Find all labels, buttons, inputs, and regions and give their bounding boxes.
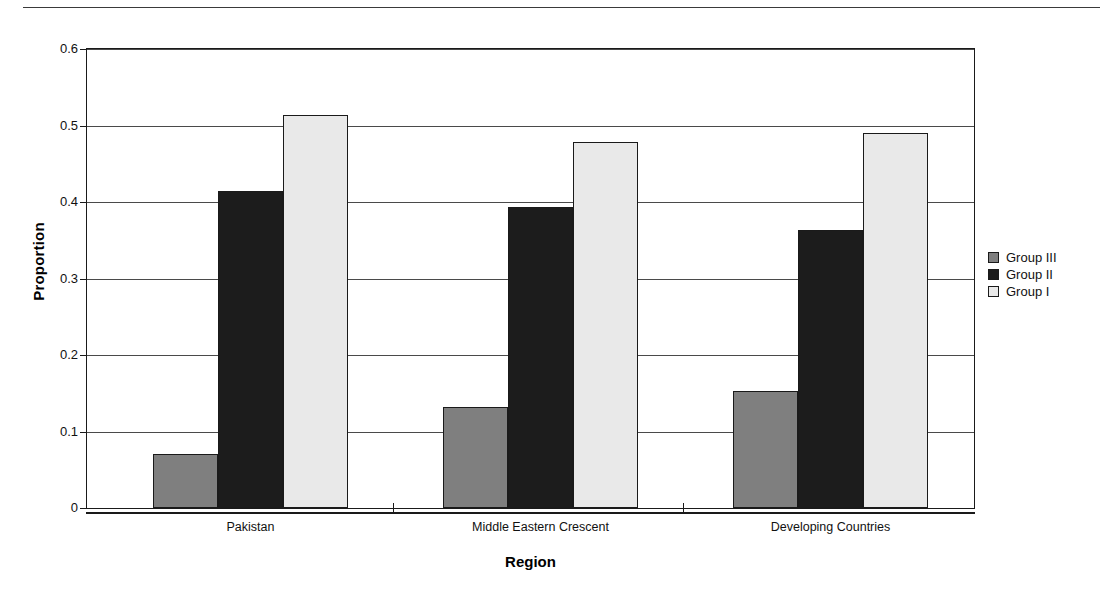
y-tick-label: 0.5 bbox=[34, 119, 78, 132]
y-tick-label: 0 bbox=[34, 501, 78, 514]
bar-group-i-pakistan bbox=[283, 115, 348, 508]
legend-item[interactable]: Group II bbox=[988, 266, 1057, 283]
bar-group-iii-developing-countries bbox=[733, 391, 798, 508]
y-tick-label: 0.3 bbox=[34, 272, 78, 285]
plot-area bbox=[86, 48, 975, 509]
bar-group-ii-pakistan bbox=[218, 191, 283, 508]
bar-group-ii-developing-countries bbox=[798, 230, 863, 508]
x-category-label: Developing Countries bbox=[701, 520, 961, 534]
bar-group-ii-middle-eastern-crescent bbox=[508, 207, 573, 508]
y-tick-label: 0.4 bbox=[34, 195, 78, 208]
y-tick-label: 0.6 bbox=[34, 42, 78, 55]
y-axis-title: Proportion bbox=[30, 162, 47, 362]
bar-chart-figure: Proportion 00.10.20.30.40.50.6 PakistanM… bbox=[0, 0, 1115, 591]
bar-group-i-middle-eastern-crescent bbox=[573, 142, 638, 508]
legend-swatch-icon bbox=[988, 269, 999, 280]
x-axis-line bbox=[86, 512, 975, 514]
plot-inner bbox=[87, 49, 974, 508]
legend: Group IIIGroup IIGroup I bbox=[988, 249, 1057, 300]
bar-group-iii-pakistan bbox=[153, 454, 218, 508]
bar-group-i-developing-countries bbox=[863, 133, 928, 508]
x-tick-mark bbox=[393, 503, 394, 513]
y-tick-label: 0.2 bbox=[34, 348, 78, 361]
legend-label: Group III bbox=[1006, 251, 1057, 264]
legend-item[interactable]: Group III bbox=[988, 249, 1057, 266]
y-tick-label: 0.1 bbox=[34, 425, 78, 438]
legend-item[interactable]: Group I bbox=[988, 283, 1057, 300]
bar-group-iii-middle-eastern-crescent bbox=[443, 407, 508, 508]
legend-label: Group II bbox=[1006, 268, 1053, 281]
legend-label: Group I bbox=[1006, 285, 1049, 298]
x-tick-mark bbox=[683, 503, 684, 513]
x-category-label: Pakistan bbox=[121, 520, 381, 534]
gridline bbox=[87, 126, 974, 127]
gridline bbox=[87, 49, 974, 50]
x-category-label: Middle Eastern Crescent bbox=[411, 520, 671, 534]
legend-swatch-icon bbox=[988, 252, 999, 263]
legend-swatch-icon bbox=[988, 286, 999, 297]
x-axis-title: Region bbox=[86, 553, 975, 570]
